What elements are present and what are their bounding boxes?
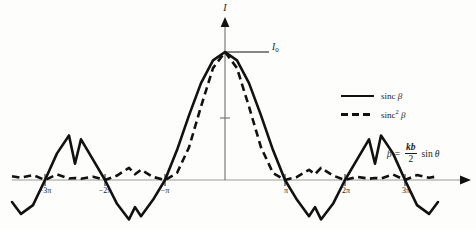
- legend-item-sinc-squared-beta: sinc2 β: [341, 106, 471, 122]
- legend-label-sinc-beta-symbol: β: [398, 91, 402, 101]
- legend-label-sinc2-main: sinc: [381, 110, 396, 120]
- y-axis-title: I: [223, 2, 226, 13]
- legend-label-sinc-beta: sinc β: [381, 91, 402, 101]
- x-axis-definition-equation: β = kb 2 sin θ: [387, 143, 439, 165]
- equation-beta-symbol: β: [387, 149, 392, 159]
- legend: sinc β sinc2 β: [341, 88, 471, 124]
- legend-label-sinc-beta-main: sinc: [381, 91, 396, 101]
- legend-swatch-solid: [341, 91, 374, 101]
- x-tick-label-minus-2pi: −2π: [99, 186, 112, 195]
- x-tick-label-2pi: 2π: [342, 186, 350, 195]
- equation-fraction-denominator: 2: [407, 155, 414, 165]
- legend-label-sinc2-exponent: 2: [396, 108, 399, 115]
- peak-intensity-label: I0: [272, 42, 279, 54]
- equation-fraction-kb-over-2: kb 2: [405, 143, 417, 165]
- sinc-intensity-diagram: I I0 −3π −2π −π π 2π 3π sinc β sinc2 β β…: [0, 0, 476, 229]
- equation-equals-sign: =: [395, 149, 400, 159]
- legend-label-sinc-squared-beta: sinc2 β: [381, 108, 405, 120]
- x-tick-label-minus-pi: −π: [161, 186, 170, 195]
- x-tick-label-minus-3pi: −3π: [39, 186, 52, 195]
- equation-sine-function: sin: [422, 149, 433, 159]
- legend-label-sinc2-symbol: β: [401, 110, 405, 120]
- equation-fraction-numerator: kb: [405, 143, 417, 153]
- peak-intensity-label-subscript: 0: [275, 46, 279, 54]
- legend-swatch-dashed: [341, 109, 374, 119]
- equation-theta-symbol: θ: [435, 149, 440, 159]
- x-tick-label-pi: π: [284, 186, 288, 195]
- x-tick-label-3pi: 3π: [402, 186, 410, 195]
- y-axis-arrowhead: [221, 17, 230, 27]
- legend-item-sinc-beta: sinc β: [341, 88, 471, 104]
- x-axis-arrowhead: [460, 175, 471, 184]
